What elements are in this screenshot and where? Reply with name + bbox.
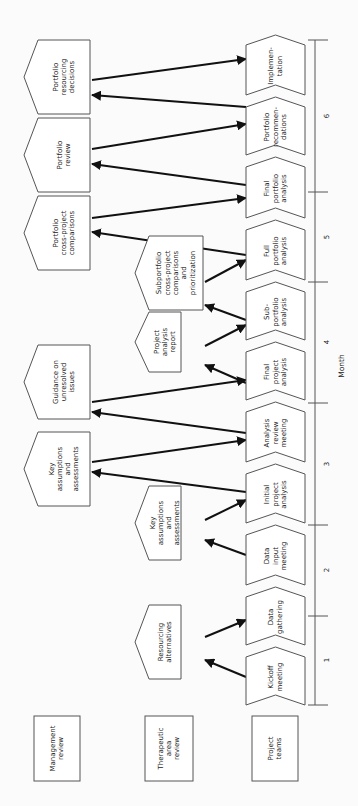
flow-arrow <box>205 260 246 282</box>
row-labels: ManagementreviewTherapeuticareareviewPro… <box>34 716 298 781</box>
process-step-label-line: tation <box>276 56 284 76</box>
process-step-label-line: Portfolio <box>263 113 271 142</box>
output-document-label-line: Key <box>48 463 56 476</box>
flow-arrow <box>92 95 246 107</box>
process-step-label: Analysisreviewmeeting <box>263 418 288 447</box>
output-document-label-line: Guidance on <box>52 360 60 404</box>
row-label-line: review <box>173 737 181 760</box>
output-document-label: Resourcingalternatives <box>157 621 173 663</box>
month-label: 6 <box>323 113 331 118</box>
flow-arrow <box>205 305 246 320</box>
output-document-label-line: assumptions <box>56 446 64 491</box>
row-label: Projectteams <box>267 736 283 760</box>
row-label-line: teams <box>275 737 283 759</box>
process-step-label-line: Analysis <box>263 418 271 447</box>
process-step-label-line: recommen- <box>272 106 280 147</box>
process-step-label-line: Full <box>263 245 271 257</box>
output-document-label-line: Portfolio <box>52 63 60 92</box>
process-step-label-line: analysis <box>280 480 288 509</box>
process-step-label-line: Implemen- <box>267 47 275 85</box>
process-step-label-line: project <box>272 360 280 385</box>
process-step-label-line: portfolio <box>272 174 280 203</box>
process-step-label-line: meeting <box>280 418 288 447</box>
process-step-label-line: Kickoff <box>267 665 275 688</box>
process-step-label-line: analysis <box>280 357 288 386</box>
row-label-line: Management <box>49 725 57 771</box>
process-diagram: ResourcingalternativesKeyassumptionsanda… <box>0 0 358 806</box>
process-step-label-line: Data <box>267 609 275 626</box>
output-document-label-line: review <box>64 143 72 166</box>
process-step-label-line: dations <box>280 114 288 140</box>
process-step-label-line: Initial <box>263 485 271 504</box>
output-document-label-line: resourcing <box>60 59 68 96</box>
output-document-label: Subportfoliocross-projectcomparisonsandp… <box>155 250 196 295</box>
output-document-label-line: and <box>165 516 173 529</box>
flow-arrow <box>92 59 246 80</box>
project-steps: KickoffmeetingDatagatheringDatainputmeet… <box>246 35 305 705</box>
process-step-label-line: Sub- <box>263 304 271 320</box>
flow-arrow <box>92 380 246 402</box>
output-document-label-line: comparisons <box>172 250 180 295</box>
flow-arrow <box>205 620 246 637</box>
flow-arrow <box>92 198 246 218</box>
month-label: 5 <box>323 235 331 239</box>
output-document-label-line: and <box>64 462 72 475</box>
month-label: 4 <box>323 339 331 344</box>
row-label-line: Therapeutic <box>157 727 165 770</box>
output-document-label-line: unresolved <box>60 363 68 402</box>
output-document-label-line: cross-project <box>164 250 172 295</box>
output-document-label-line: alternatives <box>165 621 173 663</box>
output-document-label-line: Portfolio <box>52 219 60 248</box>
process-step-label-line: Data <box>263 548 271 565</box>
output-document-label-line: assessments <box>173 500 181 545</box>
output-document-label-line: issues <box>68 371 76 393</box>
output-document-label-line: Subportfolio <box>155 252 163 295</box>
output-document-label-line: Resourcing <box>157 623 165 662</box>
output-document-label-line: assumptions <box>157 500 165 545</box>
flow-arrow <box>205 365 246 383</box>
process-step-label-line: input <box>272 547 280 565</box>
process-step-label-line: Final <box>263 364 271 380</box>
row-label-line: review <box>57 737 65 760</box>
process-step-label-line: portfolio <box>272 236 280 265</box>
output-document-label-line: Project <box>153 330 161 354</box>
output-document-label-line: decisions <box>68 60 76 93</box>
output-document-label-line: Key <box>149 517 157 530</box>
output-document-label: Projectanalysisreport <box>153 327 178 356</box>
output-document-label-line: Portfolio <box>56 141 64 170</box>
output-document-label-line: comparisons <box>68 210 76 255</box>
flow-arrow <box>92 164 246 185</box>
process-step-label-line: meeting <box>280 541 288 570</box>
output-document-label-line: prioritization <box>189 251 197 295</box>
output-document-label-line: assessments <box>72 446 80 491</box>
flow-arrow <box>92 440 246 462</box>
output-document-label-line: and <box>180 266 188 279</box>
flow-arrow <box>92 124 246 149</box>
process-step-label-line: project <box>272 482 280 507</box>
timeline-axis-label: Month <box>337 354 346 378</box>
process-step-label-line: analysis <box>280 174 288 203</box>
month-label: 2 <box>323 568 331 572</box>
month-label: 3 <box>323 462 331 466</box>
output-document-label-line: cross-project <box>60 210 68 255</box>
flow-arrow <box>205 500 246 520</box>
output-document-label-line: report <box>169 331 177 353</box>
process-step-label: Kickoffmeeting <box>267 662 283 691</box>
process-step-label-line: Final <box>263 180 271 196</box>
output-document-label: Portfolioresourcingdecisions <box>52 59 77 96</box>
process-step-label-line: analysis <box>280 297 288 326</box>
flow-arrow <box>205 540 246 555</box>
month-label: 1 <box>323 658 331 662</box>
month-timeline: 123456Month <box>308 40 346 705</box>
output-document-label-line: analysis <box>161 327 169 356</box>
output-document-label: Portfolioreview <box>56 141 72 170</box>
flow-arrow <box>205 660 246 677</box>
row-label-line: Project <box>267 736 275 760</box>
process-step-label-line: analysis <box>280 236 288 265</box>
process-step-label-line: review <box>272 421 280 444</box>
row-label-line: area <box>165 741 173 757</box>
process-step-label-line: gathering <box>276 600 284 634</box>
flow-arrow <box>205 325 246 346</box>
process-step-label-line: portfolio <box>272 297 280 326</box>
flow-arrow <box>92 412 246 433</box>
